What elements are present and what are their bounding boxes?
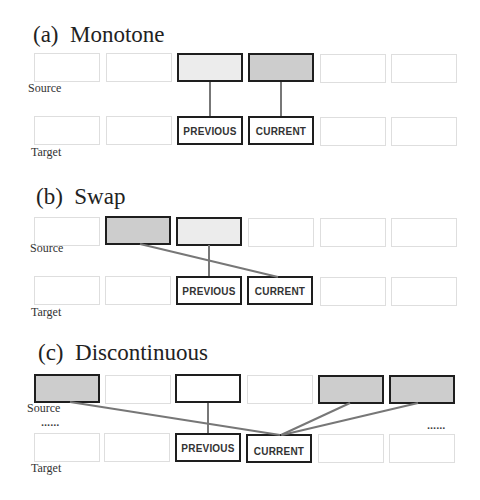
target-box-1	[34, 433, 100, 462]
panel-title: (b) Swap	[36, 184, 125, 210]
source-label: Source	[27, 401, 60, 416]
source-box-3	[176, 217, 242, 246]
source-box-6	[391, 54, 457, 83]
source-box-2	[105, 375, 171, 404]
current-label: CURRENT	[248, 446, 310, 457]
source-box-2	[105, 216, 171, 245]
previous-label: PREVIOUS	[179, 125, 241, 136]
source-box-1	[34, 374, 100, 403]
source-box-1	[34, 53, 100, 82]
target-box-previous: PREVIOUS	[177, 116, 243, 145]
source-box-5	[320, 54, 386, 83]
panel-title: (c) Discontinuous	[38, 340, 208, 366]
panel-title: (a) Monotone	[33, 22, 165, 48]
source-box-6	[391, 218, 457, 247]
source-box-3	[175, 374, 241, 403]
target-label: Target	[31, 305, 61, 320]
source-label: Source	[30, 241, 63, 256]
target-box-6	[391, 117, 457, 146]
link-current-from-6	[282, 403, 418, 435]
target-label: Target	[31, 461, 61, 476]
target-box-2	[105, 276, 171, 305]
current-label: CURRENT	[250, 125, 312, 136]
target-box-5	[320, 277, 386, 306]
ellipsis-left: ......	[41, 416, 59, 428]
source-box-5	[320, 218, 386, 247]
target-box-current: CURRENT	[247, 276, 313, 305]
target-box-2	[106, 116, 172, 145]
source-box-2	[106, 53, 172, 82]
target-box-6	[389, 434, 455, 463]
target-box-6	[391, 277, 457, 306]
target-box-1	[34, 116, 100, 145]
target-box-5	[318, 434, 384, 463]
source-box-4	[247, 375, 313, 404]
source-box-4	[248, 218, 314, 247]
target-box-previous: PREVIOUS	[176, 276, 242, 305]
link-current-from-1	[70, 402, 280, 435]
target-box-1	[34, 276, 100, 305]
previous-label: PREVIOUS	[177, 442, 239, 453]
link-current-from-5	[281, 403, 350, 435]
ellipsis-right: ......	[427, 419, 445, 431]
source-box-5	[318, 375, 384, 404]
target-box-current: CURRENT	[248, 116, 314, 145]
current-label: CURRENT	[249, 285, 311, 296]
previous-label: PREVIOUS	[178, 285, 240, 296]
source-box-3	[177, 53, 243, 82]
target-box-current: CURRENT	[246, 434, 312, 463]
source-box-6	[389, 375, 455, 404]
link-current	[140, 244, 278, 277]
target-box-2	[104, 433, 170, 462]
target-box-5	[320, 117, 386, 146]
source-label: Source	[28, 81, 61, 96]
target-label: Target	[31, 145, 61, 160]
source-box-4	[248, 53, 314, 82]
target-box-previous: PREVIOUS	[175, 433, 241, 462]
